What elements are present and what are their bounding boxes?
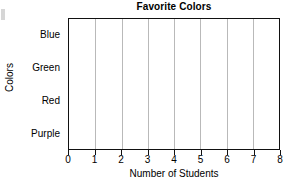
category-label-3: Purple	[14, 117, 64, 150]
tick-label-3: 3	[138, 154, 158, 165]
tick-label-1: 1	[85, 154, 105, 165]
category-label-0: Blue	[14, 18, 64, 51]
page-edge-artifact	[1, 9, 5, 20]
tick-label-5: 5	[191, 154, 211, 165]
tick-label-8: 8	[270, 154, 290, 165]
category-label-1: Green	[14, 51, 64, 84]
chart-title: Favorite Colors	[68, 1, 280, 12]
tick-label-4: 4	[164, 154, 184, 165]
bar-chart: Favorite Colors Blue Green Red Purple Co…	[0, 0, 292, 186]
tick-label-7: 7	[244, 154, 264, 165]
tick-label-0: 0	[58, 154, 78, 165]
plot-area	[68, 18, 280, 150]
bars-group	[69, 19, 279, 149]
category-label-2: Red	[14, 84, 64, 117]
tick-label-2: 2	[111, 154, 131, 165]
category-axis-labels: Blue Green Red Purple	[14, 18, 64, 150]
y-axis-title: Colors	[4, 48, 15, 108]
x-axis-title: Number of Students	[68, 168, 280, 179]
tick-label-6: 6	[217, 154, 237, 165]
